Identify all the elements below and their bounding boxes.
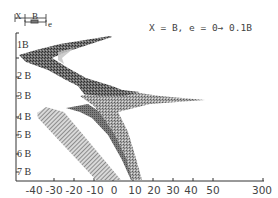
y-tick-label: 4 B bbox=[17, 112, 31, 122]
x-tick-label: -20 bbox=[65, 185, 82, 196]
x-tick-label: -10 bbox=[86, 185, 103, 196]
chart: X = B, e = 0→ 0.1B X B e 1B 2 B 3 B 4 B … bbox=[0, 0, 278, 198]
x-tick-label: 50 bbox=[206, 185, 219, 196]
x-tick-label: 20 bbox=[147, 185, 160, 196]
y-tick-label: 3 B bbox=[17, 91, 31, 101]
x-tick-label: 30 bbox=[166, 185, 179, 196]
x-tick-label: -30 bbox=[45, 185, 62, 196]
x-tick-label: 0 bbox=[111, 185, 118, 196]
y-tick-label: 7 B bbox=[17, 167, 31, 177]
x-tick-label: 300 bbox=[252, 185, 272, 196]
y-tick-label: 1B bbox=[17, 40, 29, 50]
chart-title: X = B, e = 0→ 0.1B bbox=[149, 23, 252, 33]
y-tick-label: 2 B bbox=[17, 71, 31, 81]
legend-label-e: e bbox=[48, 19, 52, 29]
x-tick-label: -40 bbox=[25, 185, 42, 196]
x-tick-label: 10 bbox=[128, 185, 141, 196]
y-tick-label: 6 B bbox=[17, 149, 31, 159]
series-dark-upper bbox=[19, 36, 130, 93]
legend-label-b: B bbox=[32, 11, 38, 21]
legend-label-x: X bbox=[15, 11, 22, 21]
x-tick-label: 40 bbox=[184, 185, 197, 196]
y-tick-label: 5 B bbox=[17, 130, 31, 140]
